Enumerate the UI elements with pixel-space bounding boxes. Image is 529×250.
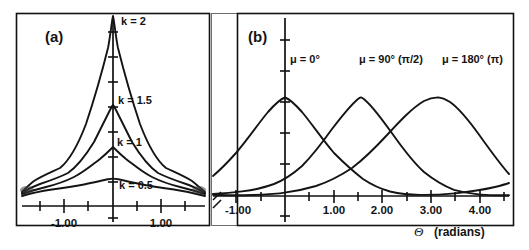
panel-b-xaxis-unit: (radians) (434, 225, 485, 239)
panel-b-xaxis-symbol: Θ (414, 224, 424, 239)
panel-a-xtick-label-pos1: 1.00 (150, 217, 172, 229)
panel-a-xtick-label-neg1: -1.00 (51, 217, 77, 229)
panel-b-xtick-label-4: 4.00 (469, 204, 491, 216)
panel-a-right-convergence (192, 186, 206, 194)
panel-b-label-mu180: μ = 180° (π) (442, 53, 503, 65)
panel-a-label-k2: k = 2 (121, 15, 146, 27)
panel-b-xtick-label-neg1: -1.00 (225, 204, 251, 216)
panel-b-xtick-label-1: 1.00 (323, 204, 345, 216)
panel-b-label-mu90: μ = 90° (π/2) (359, 53, 423, 65)
figure-svg: (a) (0, 0, 529, 250)
panel-a-label-k15: k = 1.5 (118, 94, 152, 106)
panel-b-label-mu0: μ = 0° (290, 53, 320, 65)
figure-container: (a) (0, 0, 529, 250)
panel-b-xtick-label-3: 3.00 (420, 204, 442, 216)
panel-a-left-convergence (20, 186, 34, 194)
panel-a-label-k05: k = 0.5 (119, 179, 153, 191)
panel-a-label-k1: k = 1 (117, 136, 142, 148)
panel-a-letter: (a) (45, 28, 63, 45)
panel-b-xtick-label-2: 2.00 (371, 204, 393, 216)
panel-b-letter: (b) (248, 28, 267, 45)
